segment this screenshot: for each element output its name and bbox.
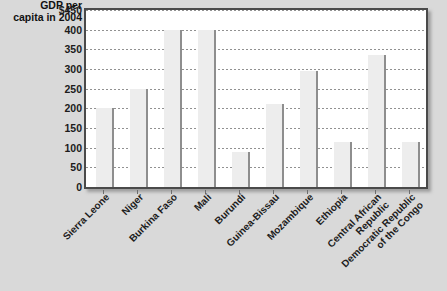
bar — [402, 142, 420, 187]
gridline — [86, 49, 426, 50]
bar — [266, 104, 284, 187]
bar — [198, 30, 216, 187]
x-axis-labels: Sierra LeoneNigerBurkina FasoMaliBurundi… — [84, 190, 428, 290]
y-axis-tick-label: 200 — [4, 103, 82, 113]
y-axis-tick-label: 300 — [4, 64, 82, 74]
y-axis-tick-label: 50 — [4, 162, 82, 172]
y-axis-tick-label: 0 — [4, 182, 82, 192]
bar — [130, 89, 148, 187]
y-axis-tick-label: 250 — [4, 84, 82, 94]
y-axis-tick-label: 100 — [4, 143, 82, 153]
bar — [300, 71, 318, 187]
y-axis-tick-label: 350 — [4, 44, 82, 54]
bar — [232, 152, 250, 187]
bar — [368, 55, 386, 187]
plot-inner — [86, 10, 426, 187]
y-axis: GDP per capita in 2004 $4504003503002502… — [0, 0, 82, 291]
bar — [334, 142, 352, 187]
bar — [164, 30, 182, 187]
y-axis-tick-label: $450 — [4, 5, 82, 15]
gridline — [86, 10, 426, 11]
bar — [96, 108, 114, 187]
y-axis-tick-label: 400 — [4, 25, 82, 35]
plot-area — [84, 8, 428, 189]
y-axis-tick-label: 150 — [4, 123, 82, 133]
gridline — [86, 30, 426, 31]
chart-screenshot: GDP per capita in 2004 $4504003503002502… — [0, 0, 447, 291]
